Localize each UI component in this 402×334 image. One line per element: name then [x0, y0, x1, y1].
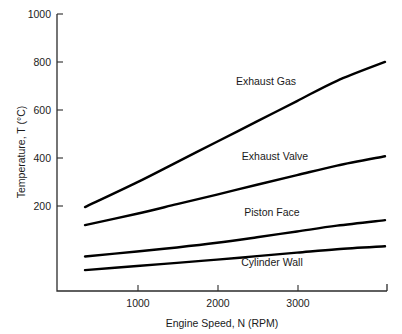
series-label-exhaust-valve: Exhaust Valve: [242, 150, 309, 162]
series-label-cylinder-wall: Cylinder Wall: [241, 256, 302, 268]
chart-figure: 1000 800 600 400 200 1000 2000 3000 Temp…: [0, 0, 402, 334]
data-curves: [85, 62, 385, 270]
series-label-exhaust-gas: Exhaust Gas: [236, 75, 296, 87]
temperature-vs-engine-speed-chart: 1000 800 600 400 200 1000 2000 3000 Temp…: [0, 0, 402, 334]
y-tick-marks: [57, 14, 63, 206]
series-label-piston-face: Piston Face: [244, 206, 300, 218]
y-tick-label-800: 800: [33, 56, 51, 68]
y-tick-label-200: 200: [33, 200, 51, 212]
y-tick-label-400: 400: [33, 152, 51, 164]
x-axis-title: Engine Speed, N (RPM): [166, 317, 279, 329]
x-tick-label-1000: 1000: [126, 297, 150, 309]
y-axis-title: Temperature, T (°C): [15, 106, 27, 199]
curve-piston-face: [85, 220, 385, 256]
y-tick-label-600: 600: [33, 104, 51, 116]
curve-exhaust-valve: [85, 156, 385, 225]
curve-cylinder-wall: [85, 246, 385, 270]
y-tick-label-1000: 1000: [28, 8, 52, 20]
x-tick-marks: [138, 285, 298, 291]
x-tick-label-3000: 3000: [286, 297, 310, 309]
x-tick-label-2000: 2000: [206, 297, 230, 309]
